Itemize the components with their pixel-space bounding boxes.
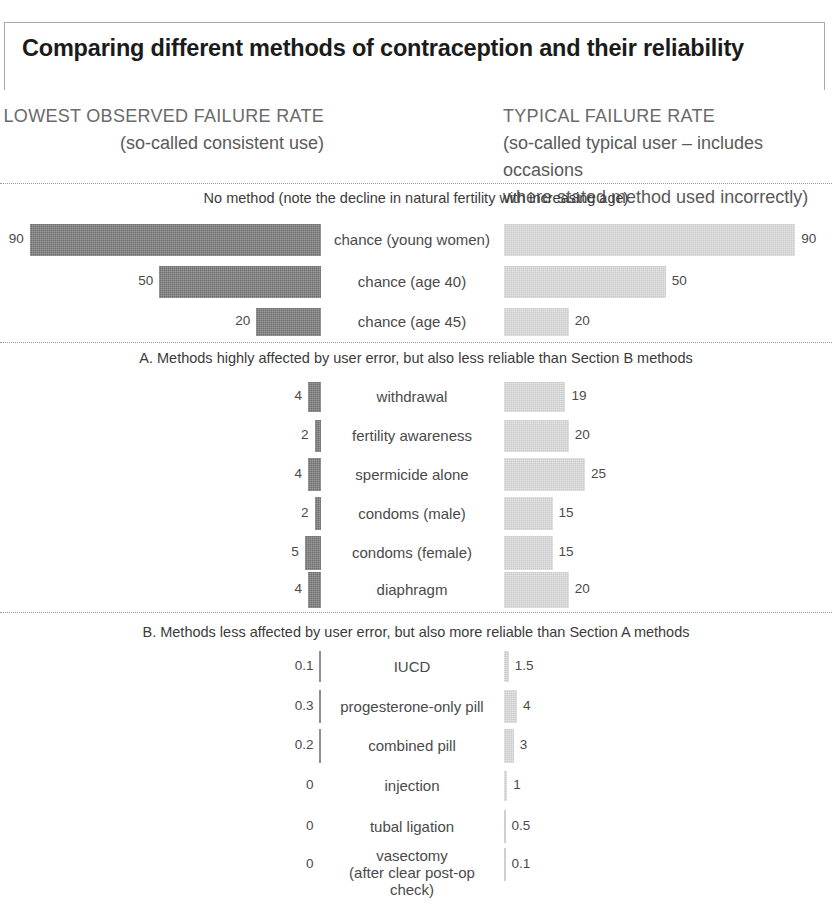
method-label: combined pill xyxy=(325,737,499,754)
method-label: spermicide alone xyxy=(325,466,499,483)
value-label-lowest: 20 xyxy=(235,313,250,328)
value-label-lowest: 0 xyxy=(306,818,314,833)
method-label: condoms (male) xyxy=(325,505,499,522)
bar-lowest-observed xyxy=(308,382,321,412)
value-label-lowest: 0.3 xyxy=(295,698,314,713)
method-label: chance (age 40) xyxy=(325,273,499,290)
method-label-line1: vasectomy xyxy=(325,847,499,864)
bar-lowest-observed xyxy=(159,266,321,298)
bar-lowest-observed xyxy=(319,651,321,682)
value-label-lowest: 4 xyxy=(295,466,303,481)
legend-left: LOWEST OBSERVED FAILURE RATE (so-called … xyxy=(0,103,324,157)
bar-typical-failure xyxy=(504,266,666,298)
bar-typical-failure xyxy=(504,536,553,570)
bar-typical-failure xyxy=(504,308,569,336)
bar-lowest-observed xyxy=(30,224,321,256)
value-label-typical: 4 xyxy=(523,698,531,713)
value-label-typical: 0.5 xyxy=(512,818,531,833)
section-divider xyxy=(0,342,832,343)
value-label-typical: 90 xyxy=(801,231,816,246)
value-label-typical: 20 xyxy=(575,581,590,596)
value-label-typical: 20 xyxy=(575,427,590,442)
bar-lowest-observed xyxy=(308,458,321,491)
value-label-lowest: 4 xyxy=(295,388,303,403)
value-label-lowest: 4 xyxy=(295,581,303,596)
bar-typical-failure xyxy=(504,420,569,452)
value-label-typical: 19 xyxy=(571,388,586,403)
method-label: injection xyxy=(325,777,499,794)
bar-typical-failure xyxy=(504,810,506,843)
value-label-lowest: 0 xyxy=(306,777,314,792)
legend-right-subtitle-line1: (so-called typical user – includes occas… xyxy=(503,130,832,184)
bar-typical-failure xyxy=(504,690,517,723)
bar-lowest-observed xyxy=(305,536,321,570)
method-label: fertility awareness xyxy=(325,427,499,444)
page-title: Comparing different methods of contracep… xyxy=(22,35,744,62)
section-banner-b: B. Methods less affected by user error, … xyxy=(0,624,832,640)
bar-typical-failure xyxy=(504,651,509,682)
section-banner-no-method: No method (note the decline in natural f… xyxy=(0,190,832,206)
bar-typical-failure xyxy=(504,224,795,256)
bar-typical-failure xyxy=(504,848,506,881)
value-label-typical: 15 xyxy=(559,544,574,559)
method-label: withdrawal xyxy=(325,388,499,405)
bar-typical-failure xyxy=(504,382,565,412)
bar-lowest-observed xyxy=(319,729,321,763)
method-label: chance (age 45) xyxy=(325,313,499,330)
value-label-lowest: 50 xyxy=(138,273,153,288)
value-label-lowest: 2 xyxy=(301,427,309,442)
section-banner-a: A. Methods highly affected by user error… xyxy=(0,350,832,366)
bar-lowest-observed xyxy=(315,497,321,530)
method-label: progesterone-only pill xyxy=(325,698,499,715)
legend-left-caption: LOWEST OBSERVED FAILURE RATE xyxy=(0,103,324,130)
value-label-typical: 0.1 xyxy=(512,856,531,871)
chart-page: Comparing different methods of contracep… xyxy=(0,0,832,916)
section-divider xyxy=(0,612,832,613)
bar-lowest-observed xyxy=(319,690,321,723)
value-label-lowest: 5 xyxy=(291,544,299,559)
bar-typical-failure xyxy=(504,771,507,801)
value-label-typical: 1 xyxy=(513,777,521,792)
value-label-lowest: 2 xyxy=(301,505,309,520)
value-label-typical: 50 xyxy=(672,273,687,288)
method-label: IUCD xyxy=(325,658,499,675)
method-label: diaphragm xyxy=(325,581,499,598)
bar-lowest-observed xyxy=(256,308,321,336)
bar-typical-failure xyxy=(504,497,553,530)
value-label-typical: 25 xyxy=(591,466,606,481)
value-label-lowest: 0.2 xyxy=(295,737,314,752)
legend-right-caption: TYPICAL FAILURE RATE xyxy=(503,103,832,130)
method-label: vasectomy(after clear post-op check) xyxy=(325,847,499,898)
value-label-typical: 1.5 xyxy=(515,658,534,673)
method-label-line2: (after clear post-op check) xyxy=(325,864,499,898)
value-label-lowest: 0.1 xyxy=(295,658,314,673)
value-label-lowest: 90 xyxy=(9,231,24,246)
method-label: condoms (female) xyxy=(325,544,499,561)
method-label: chance (young women) xyxy=(325,231,499,248)
value-label-typical: 15 xyxy=(559,505,574,520)
legend-left-subtitle: (so-called consistent use) xyxy=(0,130,324,157)
value-label-lowest: 0 xyxy=(306,856,314,871)
bar-typical-failure xyxy=(504,572,569,608)
section-divider xyxy=(0,183,832,184)
bar-typical-failure xyxy=(504,458,585,491)
footer-cut-text xyxy=(0,908,832,916)
value-label-typical: 20 xyxy=(575,313,590,328)
bar-typical-failure xyxy=(504,729,514,763)
method-label: tubal ligation xyxy=(325,818,499,835)
value-label-typical: 3 xyxy=(520,737,528,752)
bar-lowest-observed xyxy=(308,572,321,608)
bar-lowest-observed xyxy=(315,420,321,452)
